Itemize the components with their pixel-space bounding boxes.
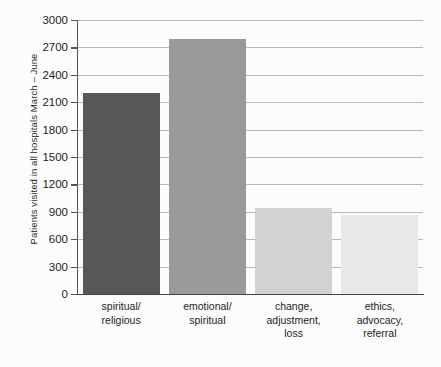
y-axis-tick-labels: 03006009001200150018002100240027003000 (20, 0, 68, 367)
x-axis-category-label-line: advocacy, (337, 314, 423, 328)
x-axis-category-label-line: spiritual (164, 314, 250, 328)
x-axis-category-label-line: adjustment, (251, 314, 337, 328)
bar (169, 39, 246, 294)
y-axis-tick-label: 2400 (28, 69, 68, 81)
gridline (78, 20, 423, 21)
y-axis-tick-label: 1500 (28, 151, 68, 163)
y-axis-tick (71, 294, 77, 295)
x-axis-category-label: emotional/spiritual (164, 300, 250, 327)
y-axis-tick (71, 20, 77, 21)
y-axis-tick (71, 267, 77, 268)
y-axis-tick (71, 157, 77, 158)
y-axis-tick-label: 1200 (28, 178, 68, 190)
y-axis-tick-label: 300 (28, 261, 68, 273)
y-axis-tick-label: 2700 (28, 41, 68, 53)
plot-area (78, 20, 423, 294)
bar-chart: Patients visited in all hospitals March … (0, 0, 441, 367)
y-axis-tick (71, 212, 77, 213)
y-axis-tick-label: 0 (28, 288, 68, 300)
x-axis-category-label: spiritual/religious (78, 300, 164, 327)
bar (255, 208, 332, 294)
x-axis-line (77, 294, 424, 295)
y-axis-tick (71, 184, 77, 185)
gridline (78, 75, 423, 76)
x-axis-category-label-line: referral (337, 327, 423, 341)
y-axis-tick-label: 2100 (28, 96, 68, 108)
bar (341, 215, 418, 294)
gridline (78, 47, 423, 48)
y-axis-tick (71, 102, 77, 103)
y-axis-tick-label: 600 (28, 233, 68, 245)
x-axis-category-label-line: ethics, (337, 300, 423, 314)
x-axis-category-label: change,adjustment,loss (251, 300, 337, 341)
x-axis-category-labels: spiritual/religiousemotional/spiritualch… (78, 300, 423, 360)
x-axis-category-label-line: loss (251, 327, 337, 341)
x-axis-category-label-line: religious (78, 314, 164, 328)
y-axis-tick (71, 47, 77, 48)
x-axis-category-label: ethics,advocacy,referral (337, 300, 423, 341)
y-axis-tick-label: 1800 (28, 124, 68, 136)
x-axis-category-label-line: spiritual/ (78, 300, 164, 314)
y-axis-tick (71, 239, 77, 240)
y-axis-tick-label: 3000 (28, 14, 68, 26)
y-axis-tick (71, 130, 77, 131)
bar (83, 93, 160, 294)
x-axis-category-label-line: change, (251, 300, 337, 314)
x-axis-category-label-line: emotional/ (164, 300, 250, 314)
y-axis-tick (71, 75, 77, 76)
y-axis-tick-label: 900 (28, 206, 68, 218)
